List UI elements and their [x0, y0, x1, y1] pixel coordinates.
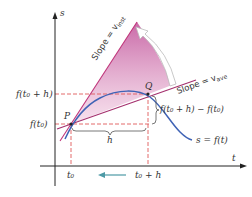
curve-label: s = f(t)	[196, 135, 228, 145]
t-axis-arrow-icon	[240, 164, 247, 169]
slope-ave-label: Slope = vave	[175, 69, 228, 97]
derivative-diagram: s t P Q f(t₀ + h) f(t₀) t₀ t₀ + h h f(t₀…	[0, 0, 252, 197]
point-q	[146, 92, 149, 95]
point-p-label: P	[63, 111, 71, 121]
point-q-label: Q	[145, 81, 153, 91]
point-p	[69, 122, 72, 125]
y-tick-upper: f(t₀ + h)	[15, 89, 53, 99]
h-brace	[72, 128, 146, 135]
h-label: h	[107, 135, 113, 145]
s-axis-arrow-icon	[53, 12, 58, 19]
approach-arrow-icon	[98, 172, 105, 178]
difference-label: f(t₀ + h) − f(t₀)	[159, 104, 224, 114]
x-tick-right: t₀ + h	[135, 170, 161, 180]
s-axis-label: s	[60, 8, 65, 18]
y-tick-lower: f(t₀)	[29, 119, 48, 129]
x-tick-left: t₀	[67, 170, 75, 180]
t-axis-label: t	[232, 153, 236, 163]
